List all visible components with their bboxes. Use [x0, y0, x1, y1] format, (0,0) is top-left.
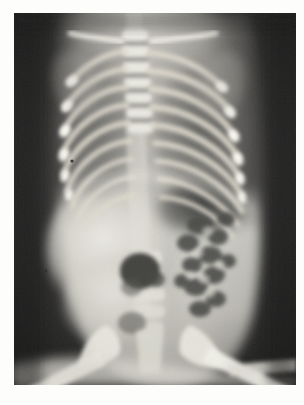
figure-page — [0, 0, 304, 405]
film-grain-overlay — [14, 13, 296, 385]
radiograph-canvas — [14, 13, 296, 385]
radiograph-image — [14, 13, 296, 385]
